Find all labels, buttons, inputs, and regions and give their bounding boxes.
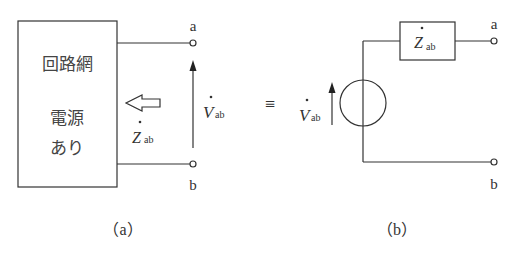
network-box (18, 21, 117, 187)
terminal-b-label-b: b (490, 176, 498, 192)
voltage-arrow-b (329, 82, 336, 125)
terminal-a-label-b: a (491, 16, 498, 32)
terminal-a (190, 40, 196, 46)
impedance-direction-arrow (126, 95, 160, 111)
svg-text:ab: ab (144, 134, 153, 145)
terminal-b-label: b (189, 177, 197, 193)
equivalence-sign: ≡ (265, 94, 275, 114)
svg-text:Z: Z (414, 34, 424, 51)
svg-text:Z: Z (132, 129, 142, 146)
terminal-b-b (491, 159, 497, 165)
voltage-label-a: V ab (203, 96, 224, 122)
source-label-line1: 電源 (50, 108, 84, 128)
impedance-label-a: Z ab (132, 121, 153, 146)
impedance-label-b: Z ab (414, 27, 435, 52)
voltage-label-b: V ab (299, 99, 320, 125)
caption-a: （a） (103, 221, 142, 238)
terminal-a-label: a (190, 18, 197, 34)
figure-a: 回路網 電源 あり a b V ab Z ab （a） (18, 18, 224, 238)
figure-b: V ab Z ab a b （b） (299, 16, 498, 238)
voltage-arrow-a (190, 60, 197, 148)
svg-text:ab: ab (215, 109, 224, 120)
terminal-b (190, 161, 196, 167)
source-label-line2: あり (50, 138, 84, 158)
terminal-a-b (491, 38, 497, 44)
svg-text:ab: ab (311, 112, 320, 123)
network-label: 回路網 (42, 54, 93, 74)
svg-text:ab: ab (426, 41, 435, 52)
caption-b: （b） (377, 221, 417, 238)
circuit-diagram: 回路網 電源 あり a b V ab Z ab （a） ≡ V (0, 0, 512, 258)
